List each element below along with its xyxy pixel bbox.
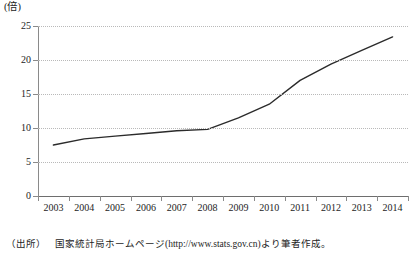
x-tick-8 xyxy=(285,196,286,201)
gridline-15 xyxy=(38,94,408,95)
source-note: （出所）国家統計局ホームページ(http://www.stats.gov.cn)… xyxy=(6,238,331,251)
x-tick-6 xyxy=(223,196,224,201)
x-tick-5 xyxy=(192,196,193,201)
y-tick-5 xyxy=(33,162,38,163)
gridline-20 xyxy=(38,60,408,61)
y-tick-25 xyxy=(33,26,38,27)
y-tick-label-20: 20 xyxy=(3,55,31,65)
data-series-line xyxy=(38,26,408,196)
x-tick-1 xyxy=(69,196,70,201)
source-note-text: 国家統計局ホームページ(http://www.stats.gov.cn)より筆者… xyxy=(55,239,331,249)
x-tick-label-2014: 2014 xyxy=(377,202,408,214)
y-tick-15 xyxy=(33,94,38,95)
x-tick-label-2003: 2003 xyxy=(38,202,69,214)
x-tick-11 xyxy=(377,196,378,201)
plot-area xyxy=(38,26,408,196)
y-tick-label-10: 10 xyxy=(3,123,31,133)
x-tick-label-2005: 2005 xyxy=(100,202,131,214)
gridline-10 xyxy=(38,128,408,129)
x-tick-4 xyxy=(161,196,162,201)
y-tick-label-5: 5 xyxy=(3,157,31,167)
x-tick-label-2006: 2006 xyxy=(131,202,162,214)
figure-container: (倍) 0510152025 2003200420052006200720082… xyxy=(0,0,412,256)
x-axis-tick-labels: 2003200420052006200720082009201020112012… xyxy=(38,202,408,216)
x-tick-label-2009: 2009 xyxy=(223,202,254,214)
y-tick-10 xyxy=(33,128,38,129)
x-tick-10 xyxy=(346,196,347,201)
y-axis-tick-labels: 0510152025 xyxy=(0,0,31,256)
x-tick-2 xyxy=(100,196,101,201)
x-tick-label-2013: 2013 xyxy=(346,202,377,214)
x-tick-12 xyxy=(408,196,409,201)
y-tick-label-0: 0 xyxy=(3,191,31,201)
x-tick-7 xyxy=(254,196,255,201)
gridline-25 xyxy=(38,26,408,27)
x-tick-label-2008: 2008 xyxy=(192,202,223,214)
y-tick-20 xyxy=(33,60,38,61)
x-tick-label-2012: 2012 xyxy=(316,202,347,214)
x-tick-3 xyxy=(131,196,132,201)
x-tick-label-2011: 2011 xyxy=(285,202,316,214)
x-tick-label-2007: 2007 xyxy=(161,202,192,214)
x-tick-label-2010: 2010 xyxy=(254,202,285,214)
x-tick-0 xyxy=(38,196,39,201)
gridline-5 xyxy=(38,162,408,163)
y-tick-label-25: 25 xyxy=(3,21,31,31)
y-tick-label-15: 15 xyxy=(3,89,31,99)
source-note-label: （出所） xyxy=(6,239,46,249)
x-tick-9 xyxy=(316,196,317,201)
x-tick-label-2004: 2004 xyxy=(69,202,100,214)
